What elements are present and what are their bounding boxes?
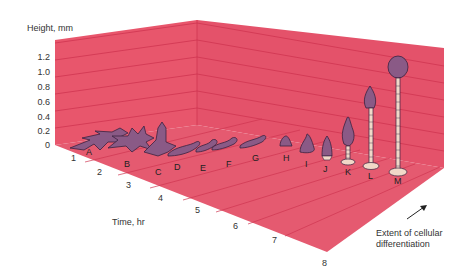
x-tick: 5 xyxy=(195,206,200,215)
x-tick: 1 xyxy=(71,154,76,163)
x-tick: 3 xyxy=(126,181,131,190)
stage-label: K xyxy=(345,168,351,177)
y-tick: 0 xyxy=(24,141,50,150)
stage-label: B xyxy=(124,160,130,169)
stage-label: M xyxy=(394,177,402,186)
x-tick: 8 xyxy=(322,259,327,268)
dictyostelium-development-diagram: Height, mm Time, hr Extent of cellular d… xyxy=(0,0,463,279)
stage-m-stalk xyxy=(396,78,400,170)
stage-label: H xyxy=(283,154,290,163)
z-axis-note-line1: Extent of cellular xyxy=(376,228,443,239)
stage-label: L xyxy=(368,172,373,181)
y-tick: 0.4 xyxy=(24,113,50,122)
stage-label: I xyxy=(305,160,308,169)
left-wall xyxy=(55,20,197,145)
differentiation-arrow-icon xyxy=(407,205,427,219)
stage-label: J xyxy=(323,165,328,174)
x-tick: 2 xyxy=(97,168,102,177)
y-axis-title: Height, mm xyxy=(27,24,73,33)
x-tick: 7 xyxy=(272,236,277,245)
z-axis-note: Extent of cellular differentiation xyxy=(376,228,443,251)
x-tick: 6 xyxy=(233,222,238,231)
stage-label: D xyxy=(174,163,181,172)
stage-label: G xyxy=(252,154,259,163)
x-axis-title: Time, hr xyxy=(112,218,145,227)
stage-label: C xyxy=(155,168,162,177)
stage-m-head xyxy=(388,56,408,78)
z-axis-note-line2: differentiation xyxy=(376,239,443,250)
x-tick: 4 xyxy=(158,194,163,203)
stage-label: A xyxy=(86,148,92,157)
y-tick: 0.8 xyxy=(24,83,50,92)
y-tick: 1.0 xyxy=(24,68,50,77)
stage-label: E xyxy=(200,164,206,173)
y-tick: 0.2 xyxy=(24,127,50,136)
y-tick: 1.2 xyxy=(24,53,50,62)
stage-label: F xyxy=(226,160,232,169)
y-tick: 0.6 xyxy=(24,98,50,107)
